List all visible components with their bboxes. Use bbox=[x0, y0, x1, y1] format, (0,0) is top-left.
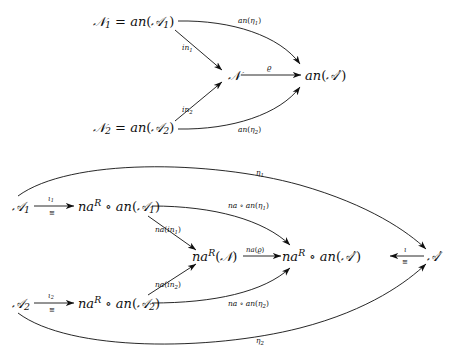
edge-label-iota2-iso: ≅ bbox=[49, 306, 55, 314]
edge-an-eta1 bbox=[178, 21, 300, 64]
node-naR-an-A1-label: naR ∘ an(𝒜1) bbox=[78, 197, 160, 215]
node-naR-an-Aprime-label: naR ∘ an(𝒜′) bbox=[282, 247, 361, 264]
edge-label-iota2: ι2 bbox=[48, 292, 54, 301]
edge-label-eta1: η1 bbox=[256, 168, 264, 178]
edge-label-iota: ι bbox=[404, 246, 407, 254]
edge-label-iota1-iso: ≅ bbox=[49, 209, 55, 217]
edge-label-eta2: η2 bbox=[256, 336, 265, 346]
node-N2-label: 𝒩2 = an(𝒜2) bbox=[93, 120, 174, 136]
edge-label-an-eta1: an(η1) bbox=[238, 16, 261, 26]
edge-label-an-eta2: an(η2) bbox=[238, 125, 261, 135]
edge-label-iota1: ι1 bbox=[48, 195, 54, 204]
edge-label-in2: in2 bbox=[182, 105, 193, 115]
diagram-top: 𝒩1 = an(𝒜1) 𝒩2 = an(𝒜2) 𝒩 an(𝒜′) in1 bbox=[93, 14, 346, 136]
commutative-diagrams-svg: 𝒩1 = an(𝒜1) 𝒩2 = an(𝒜2) 𝒩 an(𝒜′) in1 bbox=[0, 0, 459, 362]
node-A2-label: 𝒜2 bbox=[12, 296, 30, 312]
node-naR-N-label: naR(𝒩) bbox=[192, 247, 237, 264]
edge-label-na-an-eta1: na ∘ an(η1) bbox=[228, 201, 269, 211]
node-an-Aprime-label: an(𝒜′) bbox=[305, 68, 346, 83]
figure-canvas: 𝒩1 = an(𝒜1) 𝒩2 = an(𝒜2) 𝒩 an(𝒜′) in1 bbox=[0, 0, 459, 362]
edge-label-na-rho: na(ϱ) bbox=[246, 246, 265, 254]
node-A1-label: 𝒜1 bbox=[12, 199, 30, 215]
node-N1-label: 𝒩1 = an(𝒜1) bbox=[93, 14, 174, 30]
node-naR-an-A2-label: naR ∘ an(𝒜2) bbox=[78, 294, 160, 312]
edge-label-na-in2: na(in2) bbox=[155, 280, 181, 290]
edge-an-eta2 bbox=[178, 87, 300, 129]
node-Aprime-label: 𝒜′ bbox=[427, 249, 443, 264]
edge-label-iota-iso: ≅ bbox=[402, 258, 408, 266]
edge-label-in1: in1 bbox=[182, 43, 193, 53]
edge-label-na-in1: na(in1) bbox=[155, 225, 181, 235]
diagram-bottom: 𝒜1 𝒜2 naR ∘ an(𝒜1) naR ∘ an(𝒜2) naR(𝒩) n… bbox=[12, 167, 443, 346]
edge-label-na-an-eta2: na ∘ an(η2) bbox=[228, 299, 269, 309]
edge-label-rho: ϱ bbox=[267, 63, 272, 72]
edge-in2 bbox=[175, 82, 222, 121]
